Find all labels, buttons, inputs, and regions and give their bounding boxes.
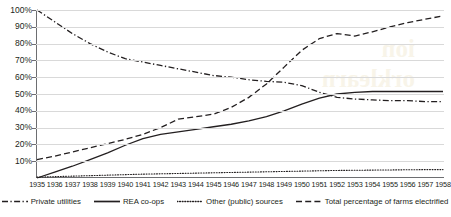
x-axis-label: 1942 [153,180,169,190]
gridline-y [36,10,444,11]
legend-label: Other (public) sources [206,197,283,206]
y-axis-label: 90% [15,22,32,31]
x-axis-label: 1943 [170,180,186,190]
gridline-y [36,27,444,28]
legend-item: Total percentage of farms electrified [296,197,449,206]
x-axis-label: 1949 [276,180,292,190]
y-axis-tick [32,60,36,61]
legend-swatch-icon [296,198,322,205]
legend-item: REA co-ops [94,197,164,206]
legend-swatch-icon [177,198,203,205]
x-axis-label: 1944 [188,180,204,190]
y-axis-label: 30% [15,123,32,132]
legend-item: Private utilities [2,197,81,206]
x-axis-label: 1938 [82,180,98,190]
y-axis-label: 80% [15,39,32,48]
y-axis-tick [32,44,36,45]
x-axis-label: 1953 [347,180,363,190]
y-axis-label: 40% [15,106,32,115]
y-axis-label: 70% [15,56,32,65]
gridline-y [36,111,444,112]
y-axis-tick [32,128,36,129]
y-axis-label: 20% [15,140,32,149]
x-axis-label: 1957 [418,180,434,190]
x-axis-label: 1956 [400,180,416,190]
y-axis-label: 100% [10,6,32,15]
x-axis-label: 1951 [312,180,328,190]
x-axis-label: 1940 [117,180,133,190]
y-axis-tick [32,111,36,112]
y-axis-tick [32,144,36,145]
y-axis-label: 60% [15,73,32,82]
legend-label: Private utilities [31,197,81,206]
x-axis-label: 1941 [135,180,151,190]
series-line [37,170,443,178]
x-axis-label: 1935 [29,180,45,190]
legend-label: REA co-ops [123,197,164,206]
legend-item: Other (public) sources [177,197,283,206]
x-axis-label: 1954 [365,180,381,190]
y-axis-tick-labels: 10%20%30%40%50%60%70%80%90%100% [0,10,32,178]
legend-swatch-icon [2,198,28,205]
chart-legend: Private utilitiesREA co-opsOther (public… [0,194,450,208]
x-axis-label: 1945 [206,180,222,190]
x-axis-label: 1952 [329,180,345,190]
series-line [37,91,443,178]
plot-area [36,10,444,178]
y-axis-tick [32,94,36,95]
y-axis-label: 10% [15,157,32,166]
gridline-y [36,144,444,145]
x-axis-tick-labels: 1935193619371938193919401941194219431944… [36,180,444,192]
y-axis-tick [32,77,36,78]
gridline-y [36,77,444,78]
series-line [37,10,443,102]
gridline-y [36,60,444,61]
x-axis-label: 1947 [241,180,257,190]
y-axis-tick [32,161,36,162]
x-axis-label: 1958 [435,180,451,190]
gridline-y [36,44,444,45]
x-axis-label: 1950 [294,180,310,190]
gridline-y [36,161,444,162]
x-axis-label: 1937 [64,180,80,190]
series-line [37,16,443,160]
y-axis-label: 50% [15,90,32,99]
x-axis-label: 1955 [382,180,398,190]
x-axis-label: 1948 [259,180,275,190]
gridline-y [36,94,444,95]
gridline-y [36,128,444,129]
y-axis-tick [32,27,36,28]
x-axis-label: 1939 [100,180,116,190]
x-axis-label: 1946 [223,180,239,190]
legend-swatch-icon [94,198,120,205]
legend-label: Total percentage of farms electrified [325,197,449,206]
y-axis-tick [32,10,36,11]
x-axis-label: 1936 [47,180,63,190]
